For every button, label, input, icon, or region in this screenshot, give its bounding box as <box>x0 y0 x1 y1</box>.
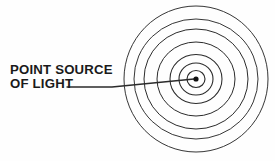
point-source-diagram: POINT SOURCE OF LIGHT <box>0 0 275 161</box>
label-line-1: POINT SOURCE <box>10 62 113 77</box>
label-line-2: OF LIGHT <box>10 76 73 91</box>
point-source-dot <box>193 76 198 81</box>
figure-container: POINT SOURCE OF LIGHT <box>0 0 275 161</box>
